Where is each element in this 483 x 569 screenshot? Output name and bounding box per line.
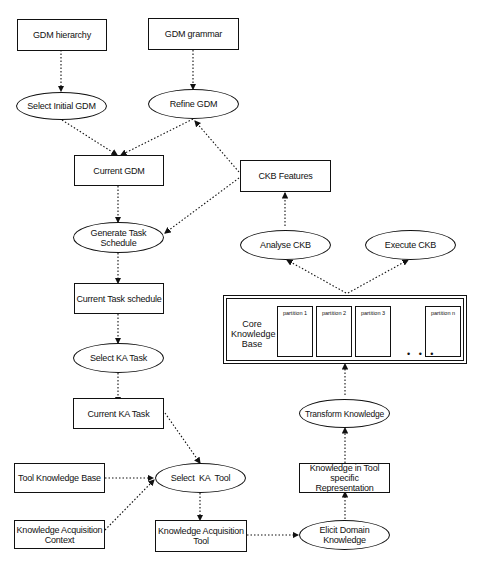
knowledge-in-tool-representation-box: Knowledge in Tool specific Representatio… bbox=[299, 463, 390, 493]
core-knowledge-base-inner: Core Knowledge Base partition 1 partitio… bbox=[226, 298, 464, 361]
ka-tool-box: Knowledge Acquisition Tool bbox=[155, 520, 247, 552]
partition-3: partition 3 bbox=[355, 306, 391, 357]
gdm-grammar-box: GDM grammar bbox=[148, 18, 239, 50]
ka-context-box: Knowledge Acquisition Context bbox=[14, 520, 105, 549]
partition-2: partition 2 bbox=[316, 306, 352, 357]
refine-gdm-oval: Refine GDM bbox=[148, 89, 239, 119]
generate-task-schedule-oval: Generate Task Schedule bbox=[73, 222, 164, 253]
current-task-schedule-box: Current Task schedule bbox=[74, 283, 164, 314]
select-initial-gdm-oval: Select Initial GDM bbox=[16, 92, 107, 120]
core-knowledge-base: Core Knowledge Base partition 1 partitio… bbox=[223, 295, 467, 364]
partition-n: partition n bbox=[425, 306, 461, 357]
current-ka-task-box: Current KA Task bbox=[73, 398, 164, 429]
tool-knowledge-base-box: Tool Knowledge Base bbox=[14, 463, 105, 493]
partition-1: partition 1 bbox=[277, 306, 313, 357]
ckb-features-box: CKB Features bbox=[240, 160, 331, 192]
gdm-hierarchy-box: GDM hierarchy bbox=[17, 19, 107, 51]
elicit-domain-knowledge-oval: Elicit Domain Knowledge bbox=[299, 520, 390, 550]
select-ka-tool-oval: Select KA Tool bbox=[155, 463, 246, 493]
current-gdm-box: Current GDM bbox=[74, 155, 164, 186]
execute-ckb-oval: Execute CKB bbox=[365, 230, 456, 260]
core-knowledge-base-label: Core Knowledge Base bbox=[231, 319, 273, 349]
analyse-ckb-oval: Analyse CKB bbox=[240, 230, 331, 260]
select-ka-task-oval: Select KA Task bbox=[73, 343, 164, 373]
transform-knowledge-oval: Transform Knowledge bbox=[299, 399, 390, 428]
